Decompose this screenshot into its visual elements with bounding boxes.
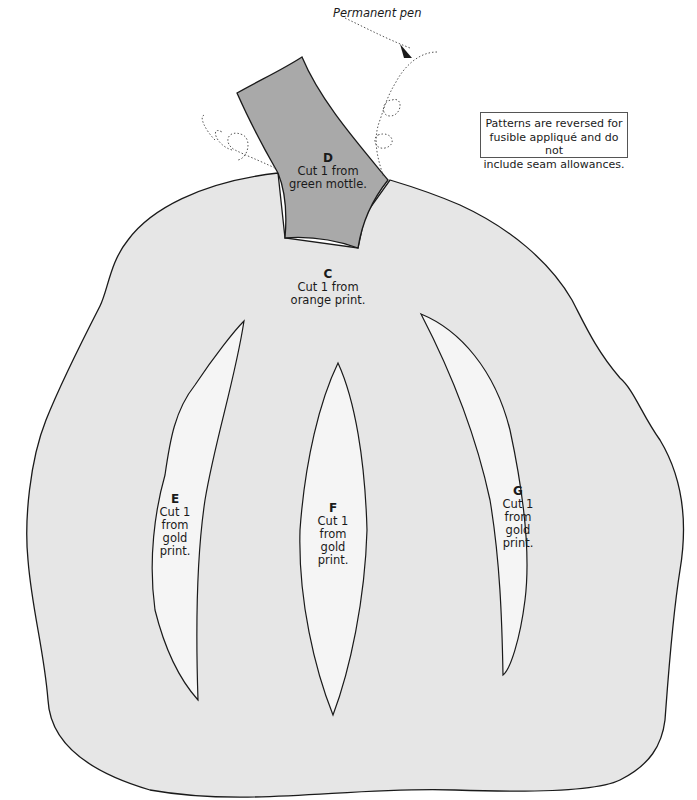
- piece-instruction: green mottle.: [280, 178, 376, 191]
- note-line: fusible appliqué and do not: [481, 131, 627, 158]
- piece-d-label: D Cut 1 from green mottle.: [280, 152, 376, 191]
- piece-e-label: E Cut 1 from gold print.: [155, 493, 195, 558]
- piece-instruction: print.: [155, 545, 195, 558]
- piece-g-label: G Cut 1 from gold print.: [498, 485, 538, 550]
- note-line: Patterns are reversed for: [481, 117, 627, 131]
- piece-c-label: C Cut 1 from orange print.: [278, 268, 378, 307]
- permanent-pen-annotation: Permanent pen: [333, 6, 421, 20]
- piece-instruction: print.: [313, 554, 353, 567]
- piece-f-label: F Cut 1 from gold print.: [313, 502, 353, 567]
- piece-instruction: orange print.: [278, 294, 378, 307]
- note-line: include seam allowances.: [481, 158, 627, 172]
- pattern-note-box: Patterns are reversed for fusible appliq…: [480, 112, 628, 158]
- piece-instruction: print.: [498, 537, 538, 550]
